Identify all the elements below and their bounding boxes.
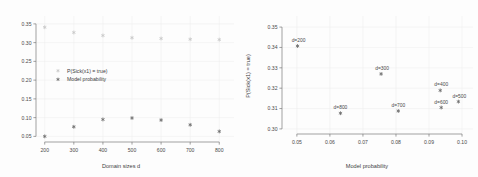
y-tick-label: 0.10: [22, 115, 32, 121]
y-tick-label: 0.34: [268, 44, 278, 50]
y-tick-label: 0.20: [22, 77, 32, 83]
scatter-point-label: d=300: [375, 66, 389, 71]
scatter-point-label: d=200: [292, 38, 306, 43]
x-tick-label: 800: [215, 147, 224, 153]
y-tick-label: 0.32: [268, 85, 278, 91]
right-y-axis-title: P(Sick(x1) = true): [245, 54, 251, 98]
right-scatter-plot: 0.300.310.320.330.340.35 0.050.060.070.0…: [239, 0, 478, 177]
right-x-tick-labels: 0.050.060.070.080.090.10: [292, 139, 467, 145]
y-tick-label: 0.30: [268, 126, 278, 132]
figure-container: 0.050.100.150.200.250.300.35 20030040050…: [0, 0, 478, 177]
y-tick-label: 0.15: [22, 96, 32, 102]
data-point-marker: [189, 37, 192, 41]
right-y-tick-labels: 0.300.310.320.330.340.35: [268, 24, 278, 132]
y-tick-label: 0.25: [22, 58, 32, 64]
x-tick-label: 0.06: [325, 139, 335, 145]
data-point-marker: [457, 100, 460, 104]
data-point-marker: [440, 106, 443, 110]
data-point-marker: [57, 78, 60, 81]
data-point-marker: [339, 111, 342, 115]
x-tick-label: 600: [157, 147, 166, 153]
left-gridlines: [36, 16, 234, 142]
scatter-point-label: d=700: [391, 103, 405, 108]
y-tick-label: 0.31: [268, 105, 278, 111]
x-tick-label: 400: [99, 147, 108, 153]
data-point-marker: [43, 25, 46, 29]
x-tick-label: 0.09: [424, 139, 434, 145]
data-point-marker: [130, 116, 133, 120]
data-point-marker: [72, 31, 75, 35]
data-point-marker: [397, 109, 400, 113]
right-point-labels: d=200d=300d=400d=500d=600d=700d=800: [292, 38, 467, 110]
x-tick-label: 0.08: [391, 139, 401, 145]
data-point-marker: [439, 89, 442, 93]
data-point-marker: [218, 38, 221, 42]
left-x-axis-title: Domain sizes d: [102, 163, 140, 169]
x-tick-label: 700: [186, 147, 195, 153]
data-point-marker: [101, 34, 104, 38]
x-tick-label: 0.07: [358, 139, 368, 145]
y-tick-label: 0.35: [268, 24, 278, 30]
scatter-point-label: d=600: [434, 100, 448, 105]
y-tick-label: 0.33: [268, 65, 278, 71]
y-tick-label: 0.30: [22, 40, 32, 46]
data-point-marker: [101, 118, 104, 122]
chart-panel-left: 0.050.100.150.200.250.300.35 20030040050…: [0, 0, 239, 177]
chart-panel-right: 0.300.310.320.330.340.35 0.050.060.070.0…: [239, 0, 478, 177]
left-y-tick-labels: 0.050.100.150.200.250.300.35: [22, 21, 32, 140]
x-tick-label: 0.10: [457, 139, 467, 145]
y-tick-label: 0.35: [22, 21, 32, 27]
legend-entry-label: Model probability: [67, 76, 107, 82]
x-tick-label: 500: [128, 147, 137, 153]
data-point-marker: [189, 123, 192, 127]
data-point-marker: [57, 69, 60, 72]
left-axes: [33, 24, 219, 145]
left-scatter-plot: 0.050.100.150.200.250.300.35 20030040050…: [0, 0, 239, 177]
x-tick-label: 300: [70, 147, 79, 153]
data-point-marker: [130, 36, 133, 40]
right-gridlines: [282, 16, 473, 134]
x-tick-label: 0.05: [292, 139, 302, 145]
data-point-marker: [159, 37, 162, 41]
right-x-axis-title: Model probability: [346, 163, 388, 169]
scatter-point-label: d=800: [334, 105, 348, 110]
x-tick-label: 200: [40, 147, 49, 153]
scatter-point-label: d=400: [434, 82, 448, 87]
scatter-point-label: d=500: [453, 94, 467, 99]
data-point-marker: [379, 72, 382, 76]
data-point-marker: [159, 118, 162, 122]
data-point-marker: [72, 125, 75, 129]
data-point-marker: [218, 130, 221, 134]
left-x-tick-labels: 200300400500600700800: [40, 147, 223, 153]
y-tick-label: 0.05: [22, 133, 32, 139]
legend-entry-label: P(Sick(x1) = true): [67, 68, 108, 74]
